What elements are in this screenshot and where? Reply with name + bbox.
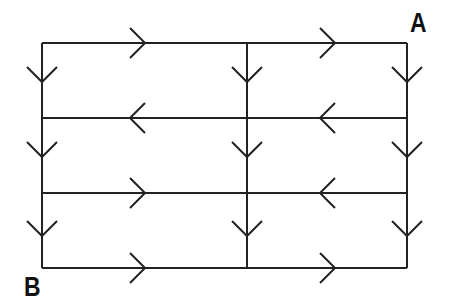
grid-diagram: [0, 0, 449, 308]
direction-arrows: [27, 28, 422, 283]
label-b: B: [24, 272, 41, 303]
label-a: A: [410, 8, 427, 39]
grid-lines: [42, 43, 407, 268]
